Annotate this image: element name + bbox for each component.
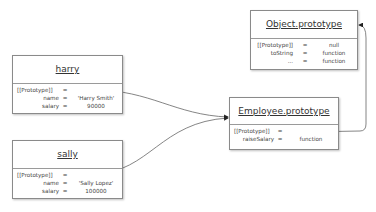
prop-key: ... (251, 57, 293, 65)
prop-key: [[Prototype]] (234, 127, 274, 135)
prop-eq: = (61, 94, 69, 102)
object-prototype-title: Object.prototype (251, 11, 357, 39)
harry-title: harry (13, 56, 122, 84)
prop-row: [[Prototype]] = null (251, 41, 357, 49)
prop-key: salary (13, 102, 59, 110)
prop-eq: = (276, 135, 284, 143)
prop-eq: = (61, 102, 69, 110)
prop-eq: = (61, 171, 69, 179)
prop-eq: = (61, 86, 69, 94)
prop-row: salary = 100000 (13, 187, 122, 195)
prop-row: [[Prototype]] = (13, 171, 122, 179)
prop-key: name (13, 94, 59, 102)
prop-key: raiseSalary (230, 135, 274, 143)
prop-value: function (315, 49, 353, 57)
object-prototype-props: [[Prototype]] = null toString = function… (251, 39, 357, 65)
employee-prototype-title: Employee.prototype (230, 98, 338, 125)
prop-key: name (13, 179, 59, 187)
prop-key: toString (251, 49, 293, 57)
prop-row: raiseSalary = function (230, 135, 338, 143)
prop-row: salary = 90000 (13, 102, 122, 110)
prop-eq: = (61, 179, 69, 187)
harry-props: [[Prototype]] = name = 'Harry Smith' sal… (13, 84, 122, 110)
prop-row: [[Prototype]] = (13, 86, 122, 94)
prop-value: 90000 (73, 102, 119, 110)
prop-key: [[Prototype]] (251, 41, 293, 49)
employee-prototype-props: [[Prototype]] = raiseSalary = function (230, 125, 338, 143)
prop-key: [[Prototype]] (17, 86, 57, 94)
prop-eq: = (301, 49, 309, 57)
sally-title: sally (13, 141, 122, 169)
employee-prototype-box: Employee.prototype [[Prototype]] = raise… (229, 97, 339, 150)
prop-row: [[Prototype]] = (230, 127, 338, 135)
prop-value: 'Sally Lopez' (73, 179, 119, 187)
prop-value: null (315, 41, 353, 49)
prop-value: 100000 (73, 187, 119, 195)
harry-box: harry [[Prototype]] = name = 'Harry Smit… (12, 55, 123, 114)
prop-key: salary (13, 187, 59, 195)
prop-key: [[Prototype]] (17, 171, 57, 179)
object-prototype-box: Object.prototype [[Prototype]] = null to… (250, 10, 358, 70)
prop-value: 'Harry Smith' (73, 94, 119, 102)
prop-row: name = 'Sally Lopez' (13, 179, 122, 187)
prop-row: name = 'Harry Smith' (13, 94, 122, 102)
prop-eq: = (301, 41, 309, 49)
prop-row: ... = function (251, 57, 357, 65)
prop-eq: = (61, 187, 69, 195)
sally-props: [[Prototype]] = name = 'Sally Lopez' sal… (13, 169, 122, 195)
prop-row: toString = function (251, 49, 357, 57)
sally-box: sally [[Prototype]] = name = 'Sally Lope… (12, 140, 123, 199)
prop-eq: = (276, 127, 284, 135)
prop-value: function (315, 57, 353, 65)
prop-value: function (288, 135, 334, 143)
prop-eq: = (301, 57, 309, 65)
